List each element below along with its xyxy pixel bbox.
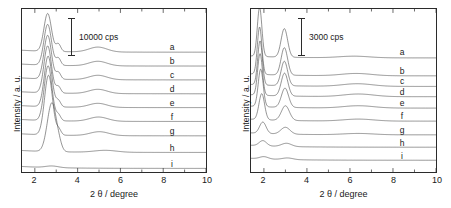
scale-bar-mark-left [68,18,75,56]
curve-label-e: e [170,98,175,108]
x-tick-8: 8 [161,175,166,185]
panel-right: Intensity / a. u. 246810 2 θ / degree 30… [226,0,451,208]
x-tick-4: 4 [304,175,309,185]
curve-h [22,103,206,153]
x-tick-2: 2 [261,175,266,185]
curve-label-d: d [170,84,175,94]
plot-area-right [250,8,437,173]
curve-label-c: c [170,70,174,80]
curve-label-b: b [170,56,175,66]
x-tick-8: 8 [391,175,396,185]
x-axis-label-left: 2 θ / degree [21,189,207,199]
x-tick-6: 6 [118,175,123,185]
curve-i [22,166,206,168]
curves-right [251,9,436,172]
x-axis-label-right: 2 θ / degree [250,189,437,199]
curve-label-f: f [401,111,403,121]
curve-i [251,157,436,161]
curve-label-i: i [401,151,403,161]
curve-e [22,56,206,107]
curve-label-h: h [170,143,175,153]
x-tick-2: 2 [31,175,36,185]
x-tick-10: 10 [432,175,442,185]
x-tick-4: 4 [75,175,80,185]
scale-bar-left: 10000 cps [68,18,118,56]
panel-left: Intensity / a. u. 246810 2 θ / degree 10… [0,0,225,208]
curve-d [251,54,436,97]
scale-bar-right: 3000 cps [298,18,344,56]
x-tick-10: 10 [202,175,212,185]
curve-label-f: f [171,112,173,122]
x-tick-labels-left: 246810 [21,175,207,187]
curve-a [251,9,436,58]
curve-c [251,41,436,86]
xrd-figure: Intensity / a. u. 246810 2 θ / degree 10… [0,0,451,208]
curve-label-b: b [400,66,405,76]
curve-h [251,141,436,148]
curve-label-e: e [400,98,405,108]
curve-label-i: i [171,159,173,169]
curve-label-g: g [400,125,405,135]
x-tick-labels-right: 246810 [250,175,437,187]
scale-bar-label-right: 3000 cps [309,32,344,42]
curve-label-h: h [400,138,405,148]
y-axis-label-left: Intensity / a. u. [12,75,22,132]
x-tick-6: 6 [348,175,353,185]
curve-label-d: d [400,87,405,97]
curve-g [251,122,436,135]
scale-bar-mark-right [298,18,305,56]
y-axis-label-right: Intensity / a. u. [241,75,251,132]
curve-e [251,69,436,108]
curve-label-a: a [400,47,405,57]
curve-g [22,75,206,136]
curve-f [251,94,436,121]
scale-bar-label-left: 10000 cps [79,32,118,42]
curve-label-c: c [400,76,404,86]
curve-label-g: g [170,126,175,136]
curve-label-a: a [170,42,175,52]
